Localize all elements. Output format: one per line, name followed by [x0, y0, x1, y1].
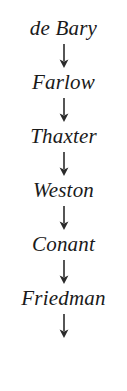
- lineage-node: Conant: [32, 233, 95, 256]
- down-arrow-icon: [56, 151, 72, 177]
- down-arrow-icon: [56, 313, 72, 339]
- lineage-node: de Bary: [30, 17, 97, 40]
- down-arrow-icon: [56, 43, 72, 69]
- down-arrow-icon: [56, 97, 72, 123]
- lineage-node: Weston: [33, 179, 94, 202]
- lineage-node: Thaxter: [30, 125, 97, 148]
- down-arrow-icon: [56, 205, 72, 231]
- lineage-node: Friedman: [21, 287, 105, 310]
- lineage-diagram: de Bary Farlow Thaxter Weston Conant: [0, 0, 127, 391]
- down-arrow-icon: [56, 259, 72, 285]
- lineage-node: Farlow: [32, 71, 95, 94]
